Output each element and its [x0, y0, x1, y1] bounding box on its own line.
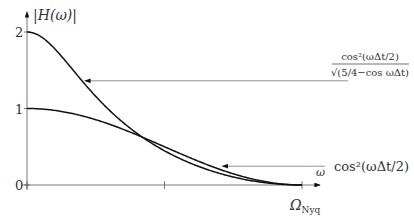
y-axis-label: |H(ω)|: [33, 7, 77, 24]
nyquist-label: ΩNyq: [289, 197, 321, 215]
x-axis-label: ω: [316, 166, 325, 179]
y-tick-label: 0: [15, 178, 23, 193]
y-tick-label: 2: [15, 25, 23, 40]
series-line-0: [27, 32, 302, 185]
annotation-0-denominator: √(5/4−cos ωΔt): [331, 67, 409, 78]
annotation-0-numerator: cos²(ωΔt/2): [341, 51, 399, 62]
annotation-1-label: cos²(ωΔt/2): [334, 159, 409, 174]
chart: |H(ω)| ω 012 ΩNyq cos²(ωΔt/2)√(5/4−cos ω…: [0, 0, 414, 221]
y-tick-label: 1: [15, 102, 23, 117]
series-line-1: [27, 109, 302, 186]
